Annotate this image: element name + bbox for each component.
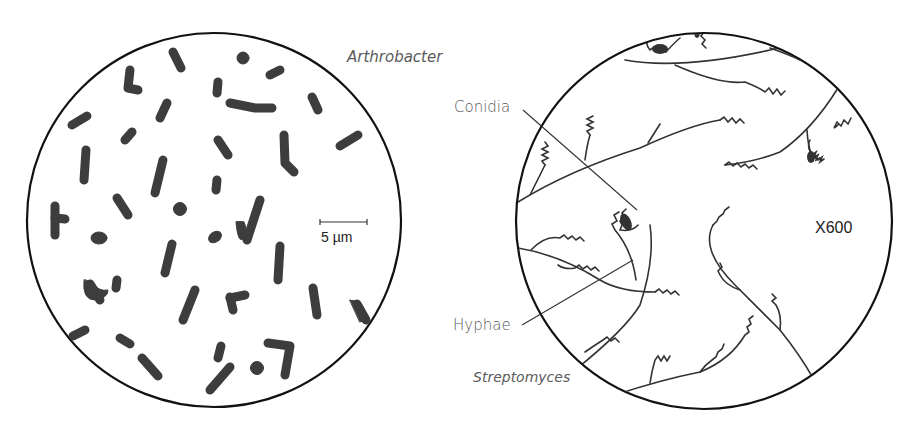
streptomyces-field <box>518 28 851 395</box>
arthrobacter-cells <box>55 52 366 390</box>
coccus-cell <box>251 362 264 375</box>
streptomyces-label: Streptomyces <box>473 369 570 385</box>
conidia-chains <box>618 26 815 232</box>
coccus-cell <box>91 232 107 244</box>
hyphae-leader <box>522 260 633 325</box>
hyphae-label: Hyphae <box>453 316 511 334</box>
scale-bar <box>320 219 367 225</box>
conidia-leader <box>523 110 637 210</box>
diagram-canvas <box>0 0 909 436</box>
leader-lines <box>522 110 637 325</box>
arthrobacter-field <box>55 52 366 390</box>
magnification-label: X600 <box>815 219 852 237</box>
conidia-label: Conidia <box>454 98 510 116</box>
arthrobacter-label: Arthrobacter <box>347 48 442 66</box>
scale-bar-label: 5 µm <box>321 229 352 245</box>
coccus-cell <box>174 203 187 216</box>
coccus-cell <box>237 52 249 64</box>
